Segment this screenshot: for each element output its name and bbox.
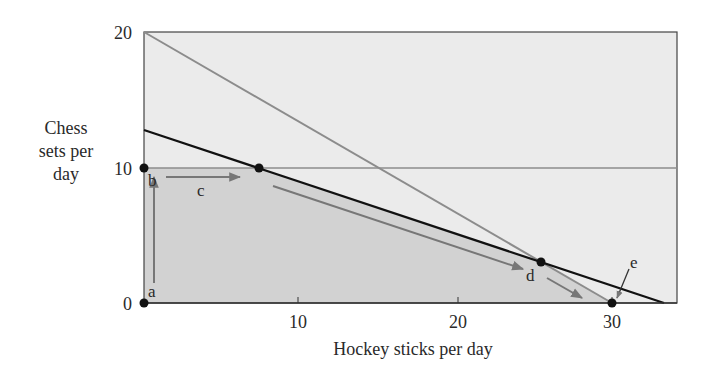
y-tick-label-20: 20 <box>114 23 132 43</box>
point-d <box>537 258 546 267</box>
x-tick-label-30: 30 <box>603 312 621 332</box>
label-a: a <box>148 282 156 301</box>
x-axis-label: Hockey sticks per day <box>333 339 492 359</box>
label-d: d <box>526 266 535 285</box>
label-c: c <box>197 181 205 200</box>
y-axis-label-line-3: day <box>53 164 79 184</box>
y-axis-label-line-2: sets per <box>39 141 93 161</box>
point-e <box>608 299 617 308</box>
x-tick-label-10: 10 <box>289 312 307 332</box>
x-tick-label-20: 20 <box>449 312 467 332</box>
y-axis-label-line-1: Chess <box>44 118 87 138</box>
chart: a b c d e 20 10 0 10 20 30 Hockey sticks… <box>0 0 718 377</box>
label-e: e <box>630 253 638 272</box>
y-tick-label-10: 10 <box>114 159 132 179</box>
point-c-end <box>255 164 264 173</box>
label-b: b <box>148 171 157 190</box>
y-tick-label-0: 0 <box>123 294 132 314</box>
